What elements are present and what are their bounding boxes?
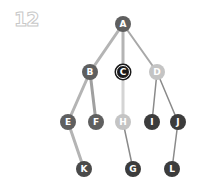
node-g: G [125, 161, 141, 177]
node-label: J [175, 117, 179, 127]
edge-a-b [90, 24, 123, 72]
node-label: B [87, 67, 94, 77]
node-label: E [65, 117, 71, 127]
edge-b-e [68, 72, 90, 122]
node-label: G [129, 164, 136, 174]
node-label: H [119, 117, 127, 127]
node-h: H [115, 114, 131, 130]
node-b: B [82, 64, 98, 80]
node-c: C [115, 64, 132, 81]
node-l: L [164, 161, 180, 177]
node-a: A [115, 16, 131, 32]
node-label: I [150, 117, 153, 127]
node-label: K [81, 164, 89, 174]
node-k: K [76, 161, 92, 177]
node-label: F [93, 117, 99, 127]
node-f: F [88, 114, 104, 130]
node-label: L [169, 164, 175, 174]
node-e: E [60, 114, 76, 130]
edge-d-j [157, 72, 178, 122]
node-label: A [120, 19, 127, 29]
tree-edges [68, 24, 178, 169]
node-d: D [149, 64, 165, 80]
node-label: C [120, 67, 127, 77]
edge-a-d [123, 24, 157, 72]
node-i: I [144, 114, 160, 130]
node-j: J [170, 114, 186, 130]
tree-diagram: ABCDEFHIJKGL [0, 0, 200, 187]
node-label: D [153, 67, 160, 77]
